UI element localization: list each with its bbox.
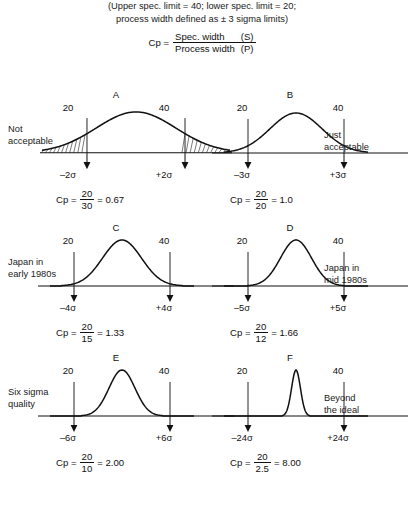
cp-formula-numerator: Spec. width (S) (173, 31, 256, 43)
panel-description-line2: mid 1980s (324, 274, 398, 286)
panel-description-line1: Japan in (324, 262, 398, 274)
cp-result: = 1.0 (271, 194, 293, 205)
cp-calculation-d: Cp = 20 12 = 1.66 (230, 321, 298, 344)
cp-result: = 8.00 (274, 457, 301, 468)
panel-description-line1: Not (8, 123, 82, 135)
lower-spec-label-f: 20 (229, 365, 255, 376)
upper-spec-label-d: 40 (325, 235, 351, 246)
lower-spec-arrow (71, 416, 78, 432)
upper-spec-arrow (341, 416, 348, 432)
chart-panel-c: C 20 40 –4σ +4σ Cp = (0, 218, 202, 366)
cp-fraction: 20 2.5 (254, 451, 271, 474)
panel-description-e: Six sigma quality (8, 386, 82, 410)
cp-calculation-a: Cp = 20 30 = 0.67 (56, 188, 124, 211)
header-line-2: process width defined as ± 3 sigma limit… (0, 13, 404, 26)
lower-spec-label-a: 20 (55, 102, 81, 113)
sigma-high-label-a: +2σ (147, 170, 181, 180)
upper-spec-arrow (167, 416, 174, 432)
sigma-low-label-c: –4σ (51, 303, 85, 313)
cp-numerator: 20 (254, 321, 269, 333)
cp-label: Cp = (56, 194, 77, 205)
header-line-1: (Upper spec. limit = 40; lower spec. lim… (0, 0, 404, 13)
cp-fraction: 20 30 (80, 188, 95, 211)
cp-label: Cp = (230, 194, 251, 205)
cp-fraction: 20 20 (254, 188, 269, 211)
sigma-high-label-f: +24σ (321, 433, 355, 443)
panel-description-line2: acceptable (324, 141, 398, 153)
cp-denominator: 12 (254, 333, 269, 344)
cp-numerator: 20 (254, 451, 271, 463)
chart-letter-c: C (104, 222, 128, 233)
sigma-low-label-b: –3σ (225, 170, 259, 180)
upper-spec-label-f: 40 (325, 365, 351, 376)
cp-result: = 0.67 (97, 194, 124, 205)
lower-spec-arrow (84, 153, 91, 169)
panel-description-line1: Beyond (324, 392, 398, 404)
cp-calculation-e: Cp = 20 10 = 2.00 (56, 451, 124, 474)
upper-spec-label-b: 40 (325, 102, 351, 113)
sigma-high-label-b: +3σ (321, 170, 355, 180)
sigma-low-label-a: –2σ (51, 170, 85, 180)
lower-spec-label-b: 20 (229, 102, 255, 113)
chart-panel-b: B 20 40 –3σ +3σ Cp = (202, 85, 404, 233)
sigma-high-label-c: +4σ (147, 303, 181, 313)
cp-calculation-b: Cp = 20 20 = 1.0 (230, 188, 293, 211)
lower-spec-label-e: 20 (55, 365, 81, 376)
chart-letter-b: B (278, 89, 302, 100)
cp-fraction: 20 15 (80, 321, 95, 344)
chart-panel-f: F 20 40 –24σ +24σ Cp (202, 348, 404, 496)
panel-description-d: Japan in mid 1980s (324, 262, 398, 286)
cp-formula-denominator-symbol: (P) (241, 43, 254, 54)
cp-denominator: 10 (80, 463, 95, 474)
cp-calculation-f: Cp = 20 2.5 = 8.00 (230, 451, 301, 474)
chart-letter-d: D (278, 222, 302, 233)
lower-spec-arrow (71, 286, 78, 302)
cp-label: Cp = (230, 457, 251, 468)
panel-description-line1: Six sigma (8, 386, 82, 398)
cp-definition-formula: Cp = Spec. width (S) Process width (P) (0, 31, 404, 54)
cp-denominator: 20 (254, 200, 269, 211)
cp-numerator: 20 (80, 188, 95, 200)
lower-spec-arrow (245, 286, 252, 302)
upper-spec-arrow (341, 286, 348, 302)
upper-spec-label-e: 40 (151, 365, 177, 376)
upper-spec-arrow (341, 153, 348, 169)
cp-result: = 1.66 (271, 327, 298, 338)
cp-numerator: 20 (254, 188, 269, 200)
cp-label: Cp = (56, 327, 77, 338)
panel-description-line1: Japan in (8, 256, 82, 268)
panel-description-line2: quality (8, 398, 82, 410)
lower-spec-arrow (245, 416, 252, 432)
chart-row: C 20 40 –4σ +4σ Cp = (0, 218, 404, 366)
panel-description-b: Just acceptable (324, 129, 398, 153)
lower-spec-arrow (245, 153, 252, 169)
cp-denominator: 30 (80, 200, 95, 211)
panel-description-line2: the ideal (324, 404, 398, 416)
cp-calculation-c: Cp = 20 15 = 1.33 (56, 321, 124, 344)
cp-formula-label: Cp = (148, 37, 169, 48)
chart-letter-a: A (104, 89, 128, 100)
chart-panel-a: A 20 40 –2σ +2σ Cp = (0, 85, 202, 233)
cp-formula-numerator-symbol: (S) (241, 31, 254, 42)
cp-result: = 1.33 (97, 327, 124, 338)
chart-row: A 20 40 –2σ +2σ Cp = (0, 85, 404, 233)
upper-spec-label-a: 40 (151, 102, 177, 113)
sigma-low-label-f: –24σ (225, 433, 259, 443)
cp-formula-numerator-text: Spec. width (175, 31, 225, 42)
sigma-high-label-d: +5σ (321, 303, 355, 313)
cp-formula-denominator-text: Process width (175, 43, 235, 54)
chart-letter-f: F (278, 352, 302, 363)
cp-fraction: 20 12 (254, 321, 269, 344)
upper-spec-arrow (167, 286, 174, 302)
chart-panel-e: E 20 40 –6σ +6σ Cp = (0, 348, 202, 496)
panel-description-line1: Just (324, 129, 398, 141)
sigma-high-label-e: +6σ (147, 433, 181, 443)
cp-formula-denominator: Process width (P) (173, 43, 256, 54)
header: (Upper spec. limit = 40; lower spec. lim… (0, 0, 404, 54)
chart-letter-e: E (104, 352, 128, 363)
panel-description-line2: acceptable (8, 135, 82, 147)
panel-description-line2: early 1980s (8, 268, 82, 280)
upper-spec-label-c: 40 (151, 235, 177, 246)
cp-label: Cp = (56, 457, 77, 468)
cp-numerator: 20 (80, 451, 95, 463)
